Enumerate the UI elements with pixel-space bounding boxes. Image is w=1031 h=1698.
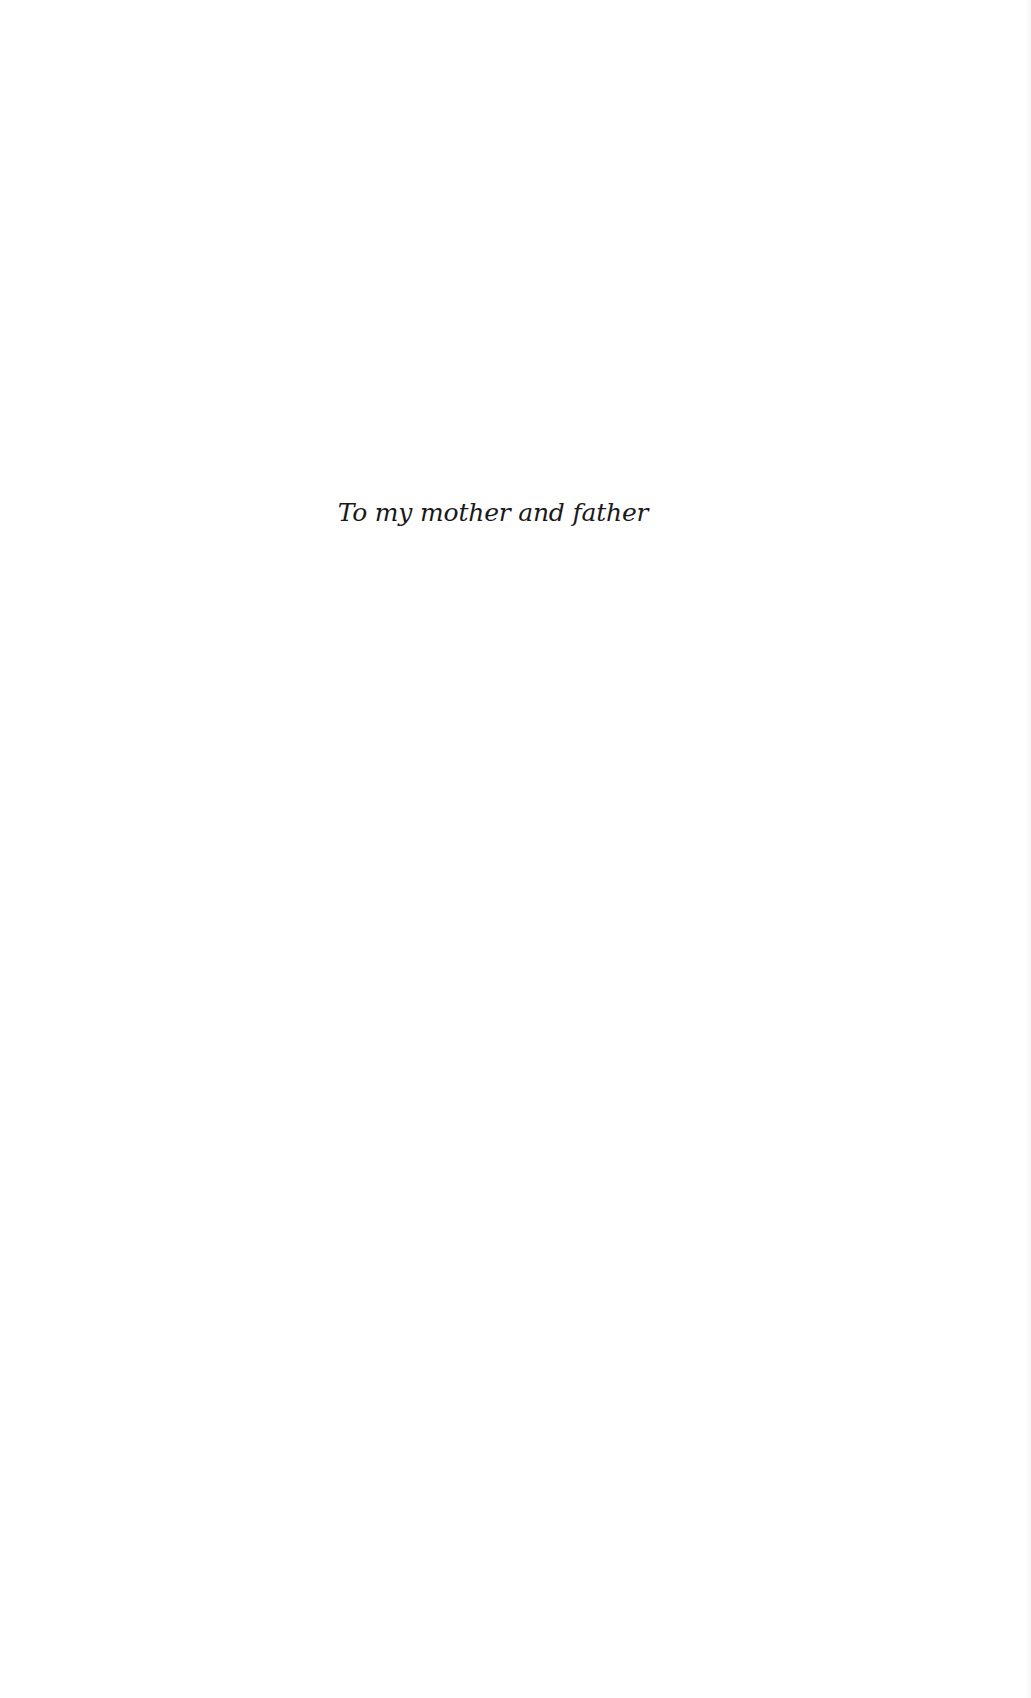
dedication-text: To my mother and father (0, 496, 986, 530)
page-edge (1025, 0, 1031, 1698)
book-page: To my mother and father (0, 0, 1031, 1698)
